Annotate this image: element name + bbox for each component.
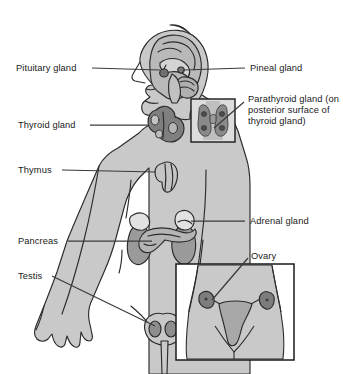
thyroid-highlight-left (151, 115, 159, 125)
parathyroid-gland-lower-left (201, 126, 206, 131)
inset-ovary-left-follicle (204, 297, 207, 300)
label-pineal-gland: Pineal gland (250, 63, 302, 74)
inset-thyroid-isthmus (210, 115, 216, 124)
parathyroid-inset-group (191, 99, 235, 142)
label-parathyroid-gland: Parathyroid gland (on posterior surface … (248, 94, 343, 128)
parathyroid-gland-lower-right (219, 126, 224, 131)
anatomy-illustration (0, 0, 343, 374)
inset-thyroid-lobe-left (198, 105, 211, 136)
pituitary-gland-shape (160, 69, 169, 77)
label-testis: Testis (18, 271, 42, 282)
label-adrenal-gland: Adrenal gland (250, 216, 309, 227)
inset-ovary-right-follicle (265, 298, 268, 301)
label-pancreas: Pancreas (18, 236, 58, 247)
thyroid-highlight-right (169, 123, 178, 134)
label-pituitary-gland: Pituitary gland (16, 63, 76, 74)
groin-crease-left (131, 306, 147, 322)
label-thyroid-gland: Thyroid gland (18, 120, 76, 131)
parathyroid-gland-upper-right (219, 112, 224, 117)
parathyroid-gland-upper-left (201, 112, 206, 117)
ovary-inset-group (176, 264, 294, 360)
endocrine-diagram: Pituitary gland Thyroid gland Thymus Pan… (0, 0, 343, 374)
label-ovary: Ovary (251, 251, 276, 262)
testis-right-shape (165, 321, 177, 337)
label-thymus: Thymus (18, 165, 52, 176)
adrenal-gland-left-shape (130, 213, 150, 230)
inset-thyroid-lobe-right (215, 105, 228, 136)
waist-crease (119, 250, 122, 273)
thyroid-highlight-lower (156, 130, 163, 138)
penis-shape (161, 341, 168, 374)
